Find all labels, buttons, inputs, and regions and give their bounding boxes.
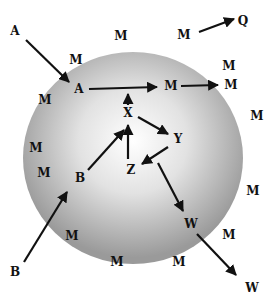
arrow-A-in xyxy=(26,40,69,82)
label-X: X xyxy=(123,106,133,120)
label-Z: Z xyxy=(127,163,136,177)
label-M: M xyxy=(37,166,50,180)
label-Q: Q xyxy=(238,14,248,28)
sphere-diagram: A M M Q M A M M M M X M Y M Z M B M M W … xyxy=(0,0,270,302)
label-M: M xyxy=(69,53,82,67)
label-M: M xyxy=(38,93,51,107)
sphere xyxy=(23,52,243,264)
label-M: M xyxy=(114,29,127,43)
label-M: M xyxy=(222,59,235,73)
label-M: M xyxy=(29,141,42,155)
arrow-M-to-Q xyxy=(199,19,234,32)
label-M: M xyxy=(177,28,190,42)
label-A-outside: A xyxy=(9,24,20,38)
label-Y: Y xyxy=(173,132,183,146)
label-B-outside: B xyxy=(10,265,20,279)
label-M: M xyxy=(65,229,78,243)
label-W-outside: W xyxy=(244,281,259,295)
label-M: M xyxy=(250,109,263,123)
arrow-M-to-M xyxy=(181,85,218,86)
label-B-surface: B xyxy=(75,171,85,185)
label-M: M xyxy=(222,228,235,242)
label-M: M xyxy=(110,255,123,269)
label-M: M xyxy=(224,78,237,92)
label-W-surface: W xyxy=(183,217,198,231)
label-M-inner: M xyxy=(164,79,177,93)
label-A-surface: A xyxy=(73,82,84,96)
label-M: M xyxy=(246,184,259,198)
label-M: M xyxy=(172,255,185,269)
